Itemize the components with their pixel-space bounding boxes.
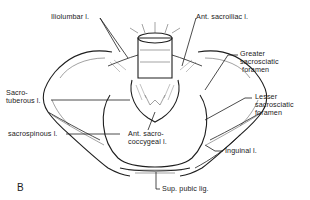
label-anterior-sacroiliac-ligament: Ant. sacroiliac l. bbox=[196, 13, 248, 21]
label-anterior-sacrococcygeal-ligament: Ant. sacro- coccygeal l. bbox=[128, 130, 167, 146]
label-iliolumbar-ligament: Iliolumbar l. bbox=[51, 13, 89, 21]
label-inguinal-ligament: Inguinal l. bbox=[225, 147, 257, 155]
label-greater-sacrosciatic-foramen: Greater sacrosciatic foramen bbox=[240, 50, 279, 74]
label-sacrotuberous-ligament: Sacro- tuberous l. bbox=[6, 89, 41, 105]
label-sacrospinous-ligament: sacrospinous l. bbox=[8, 130, 57, 138]
label-superior-pubic-ligament: Sup. pubic lig. bbox=[162, 185, 209, 193]
panel-label: B bbox=[17, 182, 24, 193]
label-lesser-sacrosciatic-foramen: Lesser sacrosciatic foramen bbox=[255, 93, 294, 117]
pelvis-ligament-diagram: Iliolumbar l. Ant. sacroiliac l. Greater… bbox=[0, 0, 310, 200]
